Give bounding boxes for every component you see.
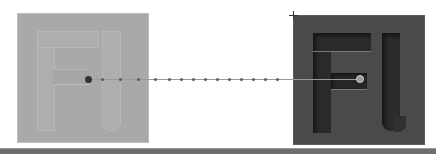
motion-path-dot xyxy=(216,78,219,81)
motion-path-dot xyxy=(252,78,255,81)
bottom-panel-edge xyxy=(0,148,436,154)
letter-f-top-bar xyxy=(37,31,99,48)
motion-path-dot xyxy=(192,78,195,81)
motion-path-dot xyxy=(119,78,122,81)
motion-path-dot xyxy=(137,78,140,81)
letter-f-middle-bar xyxy=(53,69,89,85)
motion-path-dot xyxy=(168,78,171,81)
letter-f-top-bar xyxy=(313,33,371,52)
motion-path-dot xyxy=(276,78,279,81)
letter-l-foot xyxy=(394,116,406,132)
motion-path-start-point[interactable] xyxy=(85,76,92,83)
motion-path-line xyxy=(88,79,360,80)
motion-path-dot xyxy=(180,78,183,81)
crosshair-cursor-icon xyxy=(289,11,298,20)
motion-path-dot xyxy=(204,78,207,81)
motion-path-dot xyxy=(154,78,157,81)
motion-path-end-handle[interactable] xyxy=(356,75,364,83)
motion-path-dot xyxy=(101,78,104,81)
left-letter-tile[interactable] xyxy=(17,13,149,143)
motion-path-dot xyxy=(264,78,267,81)
letter-l xyxy=(102,31,121,131)
motion-path-dot xyxy=(240,78,243,81)
motion-path-dot xyxy=(228,78,231,81)
